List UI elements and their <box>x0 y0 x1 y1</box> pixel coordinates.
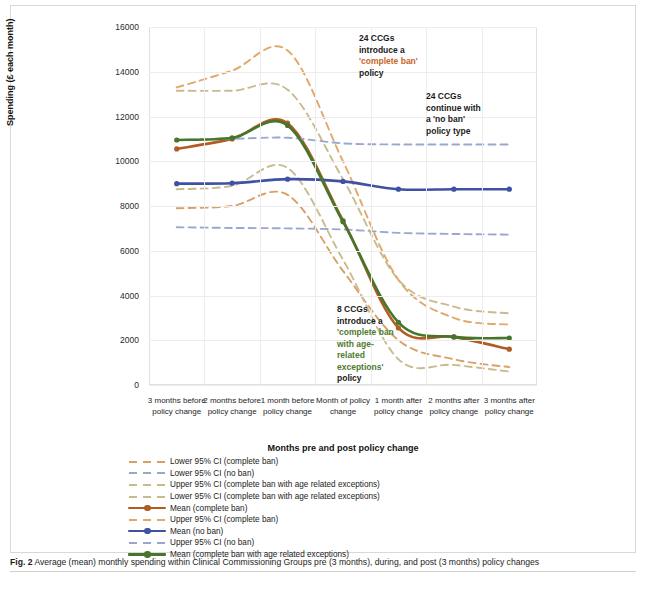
annotation-age-related-line2: introduce a <box>337 316 397 328</box>
caption-text: Average (mean) monthly spending within C… <box>34 557 539 567</box>
dashed-line-icon <box>129 461 165 463</box>
x-tick-label: 1 month after policy change <box>367 396 429 417</box>
legend-item[interactable]: Lower 95% CI (complete ban with age rela… <box>127 491 607 503</box>
annotation-age-related: 8 CCGs introduce a 'complete ban with ag… <box>337 304 397 385</box>
gridline-x <box>482 27 483 385</box>
legend-item[interactable]: Upper 95% CI (no ban) <box>127 537 607 549</box>
gridline-y <box>149 385 537 386</box>
figure-2: Spending (£ each month) 0200040006000800… <box>0 0 646 589</box>
annotation-complete-ban: 24 CCGs introduce a 'complete ban' polic… <box>359 33 421 79</box>
legend-swatch-icon <box>127 526 167 536</box>
gridline-y <box>149 161 537 162</box>
y-tick-label: 0 <box>83 380 139 390</box>
legend-item[interactable]: Mean (no ban) <box>127 526 607 538</box>
annotation-no-ban: 24 CCGs continue with a 'no ban' policy … <box>426 91 496 137</box>
y-tick-label: 8000 <box>83 201 139 211</box>
legend-label: Upper 95% CI (complete ban with age rela… <box>170 480 380 489</box>
y-axis-tick-labels: 0200040006000800010000120001400016000 <box>11 6 149 406</box>
annotation-no-ban-line4: policy type <box>426 126 496 138</box>
y-tick-label: 2000 <box>83 335 139 345</box>
legend-swatch-icon <box>127 492 167 502</box>
gridline-y <box>149 251 537 252</box>
x-tick-label: 3 months before policy change <box>146 396 208 417</box>
gridline-x <box>426 27 427 385</box>
gridline-x <box>204 27 205 385</box>
legend-swatch-icon <box>127 457 167 467</box>
marker-dot-icon <box>144 505 151 512</box>
legend-swatch-icon <box>127 538 167 548</box>
x-tick-label: 2 months after policy change <box>423 396 485 417</box>
gridline-x <box>260 27 261 385</box>
dashed-line-icon <box>129 472 165 474</box>
x-axis-title: Months pre and post policy change <box>149 443 537 453</box>
legend-item[interactable]: Lower 95% CI (no ban) <box>127 468 607 480</box>
annotation-no-ban-line1: 24 CCGs <box>426 91 496 103</box>
annotation-complete-ban-line1: 24 CCGs <box>359 33 421 45</box>
x-tick-label: 2 months before policy change <box>201 396 263 417</box>
legend-swatch-icon <box>127 515 167 525</box>
legend-item[interactable]: Upper 95% CI (complete ban) <box>127 514 607 526</box>
annotation-age-related-quoted: 'complete ban with age-related exception… <box>337 327 397 373</box>
annotation-complete-ban-line2: introduce a <box>359 45 421 57</box>
dashed-line-icon <box>129 484 165 486</box>
x-axis-tick-labels: 3 months before policy change2 months be… <box>149 394 537 440</box>
annotation-complete-ban-tail: policy <box>359 68 384 78</box>
annotation-no-ban-line2: continue with <box>426 103 496 115</box>
legend-swatch-icon <box>127 503 167 513</box>
y-tick-label: 4000 <box>83 291 139 301</box>
legend-label: Lower 95% CI (complete ban) <box>170 457 278 466</box>
legend-item[interactable]: Upper 95% CI (complete ban with age rela… <box>127 479 607 491</box>
gridline-y <box>149 206 537 207</box>
annotation-age-related-line1: 8 CCGs <box>337 304 397 316</box>
chart-canvas: Spending (£ each month) 0200040006000800… <box>11 6 637 554</box>
figure-caption: Fig. 2 Average (mean) monthly spending w… <box>10 556 636 568</box>
y-tick-label: 6000 <box>83 246 139 256</box>
y-tick-label: 12000 <box>83 112 139 122</box>
caption-label: Fig. 2 <box>10 557 32 567</box>
y-tick-label: 16000 <box>83 22 139 32</box>
legend-label: Mean (no ban) <box>170 527 223 536</box>
legend-swatch-icon <box>127 468 167 478</box>
legend-label: Lower 95% CI (complete ban with age rela… <box>170 492 380 501</box>
gridline-y <box>149 296 537 297</box>
legend-label: Upper 95% CI (complete ban) <box>170 515 278 524</box>
dashed-line-icon <box>129 542 165 544</box>
caption-divider <box>10 571 636 572</box>
x-tick-label: Month of policy change <box>312 396 374 417</box>
marker-dot-icon <box>144 528 151 535</box>
y-tick-label: 10000 <box>83 156 139 166</box>
legend-label: Mean (complete ban) <box>170 504 247 513</box>
x-tick-label: 1 month before policy change <box>257 396 319 417</box>
annotation-complete-ban-quoted: 'complete ban' <box>359 56 418 66</box>
annotation-no-ban-line3: a 'no ban' <box>426 114 496 126</box>
dashed-line-icon <box>129 496 165 498</box>
annotation-age-related-tail: policy <box>337 373 397 385</box>
gridline-y <box>149 72 537 73</box>
chart-legend: Lower 95% CI (complete ban)Lower 95% CI … <box>127 456 607 560</box>
legend-swatch-icon <box>127 480 167 490</box>
y-tick-label: 14000 <box>83 67 139 77</box>
legend-item[interactable]: Lower 95% CI (complete ban) <box>127 456 607 468</box>
x-tick-label: 3 months after policy change <box>478 396 540 417</box>
legend-label: Upper 95% CI (no ban) <box>170 538 254 547</box>
legend-item[interactable]: Mean (complete ban) <box>127 502 607 514</box>
gridline-x <box>315 27 316 385</box>
legend-label: Lower 95% CI (no ban) <box>170 469 254 478</box>
dashed-line-icon <box>129 519 165 521</box>
gridline-y <box>149 27 537 28</box>
figure-frame: Spending (£ each month) 0200040006000800… <box>10 5 636 553</box>
